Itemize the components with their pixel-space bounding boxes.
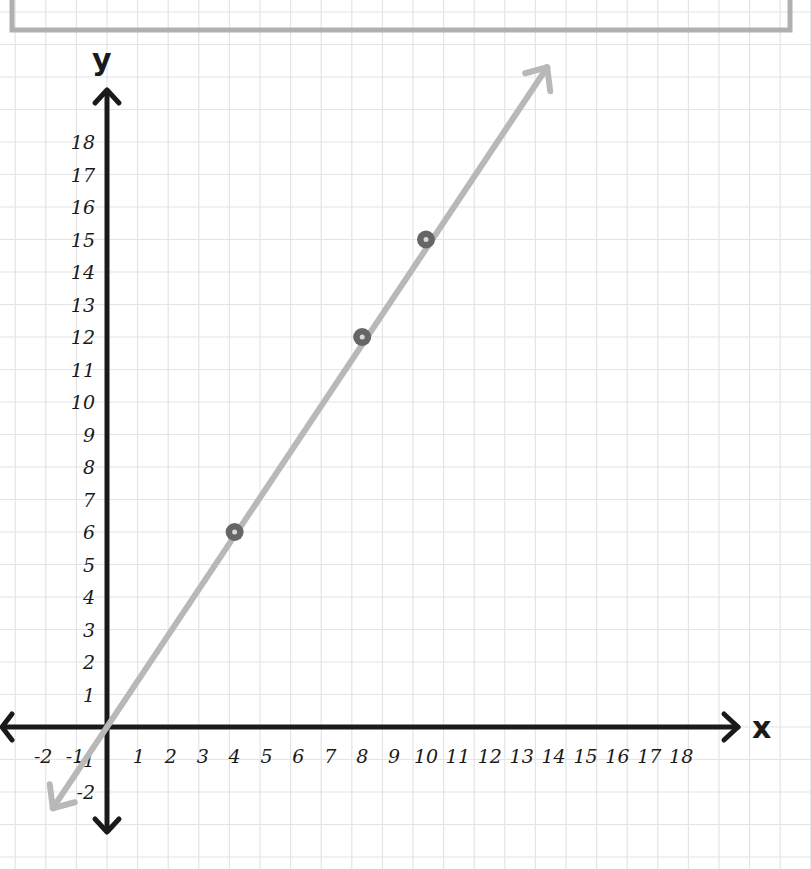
data-point-center [360,335,365,340]
question-frame [12,0,790,30]
y-tick-label: 17 [71,164,96,186]
data-series [50,67,550,808]
y-tick-label: 15 [71,229,95,251]
x-tick-label: 3 [197,745,209,767]
x-tick-label: 5 [260,745,272,767]
y-tick-label: 5 [83,554,95,576]
y-tick-label: 12 [71,326,95,348]
y-tick-label: 14 [71,261,95,283]
y-tick-label: 4 [82,586,95,608]
x-tick-label: 2 [164,745,177,767]
graphed-line [53,67,547,808]
y-tick-label: 16 [71,196,95,218]
x-tick-label: 9 [388,745,400,767]
y-tick-label: 1 [83,684,95,706]
y-tick-label: 18 [71,131,95,153]
x-tick-label: 4 [228,745,241,767]
data-point-center [232,530,237,535]
y-tick-label: 10 [71,391,95,413]
x-tick-label: -2 [34,745,53,767]
grid-lines [0,0,811,869]
x-tick-label: 8 [356,745,368,767]
x-tick-label: 11 [446,745,470,767]
y-tick-label: 11 [71,359,95,381]
x-tick-label: 6 [292,745,304,767]
x-tick-label: 1 [133,745,145,767]
y-tick-label: -2 [76,781,95,803]
x-axis-label: x [752,710,771,745]
y-tick-label: 6 [83,521,95,543]
y-axis-label: y [92,42,112,77]
x-tick-label: 16 [605,745,629,767]
x-tick-label: 7 [324,745,337,767]
x-tick-label: 13 [510,745,534,767]
y-tick-label: 8 [83,456,95,478]
y-tick-label: 13 [71,294,95,316]
x-tick-label: 18 [669,745,693,767]
y-tick-label: 3 [83,619,95,641]
data-point-center [424,237,429,242]
y-tick-label: 2 [82,651,95,673]
y-tick-label: 7 [83,489,96,511]
x-tick-label: 15 [573,745,597,767]
x-tick-label: 12 [478,745,502,767]
y-tick-label: 9 [83,424,95,446]
coordinate-plane-chart: -2-1123456789101112131415161718-2-112345… [0,0,811,869]
x-tick-label: 14 [542,745,566,767]
x-tick-label: 10 [414,745,438,767]
x-tick-label: 17 [637,745,662,767]
